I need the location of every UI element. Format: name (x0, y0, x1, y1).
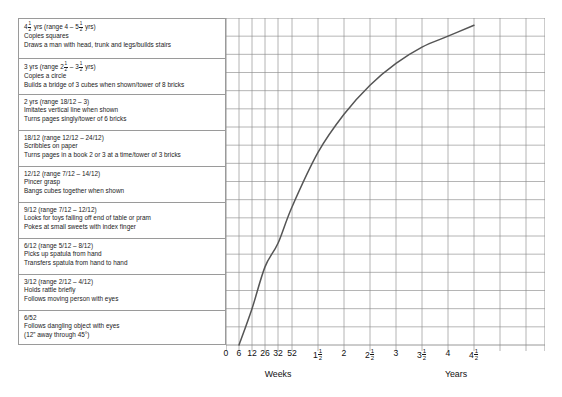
milestone-age: 9/12 (range 7/12 – 12/12) (24, 206, 221, 214)
milestone-age: 12/12 (range 7/12 – 14/12) (24, 170, 221, 178)
milestone-detail: Bangs cubes together when shown (24, 187, 221, 195)
milestone-detail: Builds a bridge of 3 cubes when shown/to… (24, 81, 221, 89)
milestone-list: 412 yrs (range 4 – 512 yrs)Copies square… (18, 18, 226, 345)
x-tick-6: 6 (237, 348, 242, 359)
milestone-age: 3 yrs (range 212 – 312 yrs) (24, 62, 221, 72)
x-tick-4: 4 (446, 348, 451, 359)
x-tick-32: 32 (273, 348, 283, 359)
milestone-detail: Holds rattle briefly (24, 286, 221, 294)
milestone-detail: Turns pages singly/tower of 6 bricks (24, 115, 221, 123)
milestone-age: 412 yrs (range 4 – 512 yrs) (24, 22, 221, 32)
milestone-box: 6/52Follows dangling object with eyes(12… (18, 310, 226, 345)
milestone-age: 18/12 (range 12/12 – 24/12) (24, 134, 221, 142)
milestone-detail: Follows dangling object with eyes (24, 322, 221, 330)
milestone-box: 6/12 (range 5/12 – 8/12)Picks up spatula… (18, 238, 226, 274)
milestone-detail: Draws a man with head, trunk and legs/bu… (24, 41, 221, 49)
milestone-box: 2 yrs (range 18/12 – 3)Imitates vertical… (18, 94, 226, 130)
x-axis-unit-labels: Weeks Years (0, 369, 562, 383)
milestone-detail: Turns pages in a book 2 or 3 at a time/t… (24, 151, 221, 159)
x-tick-1-1-2: 112 (313, 348, 323, 361)
x-axis-tick-labels: 0612263252112221233124412 (0, 348, 562, 364)
milestone-age: 2 yrs (range 18/12 – 3) (24, 98, 221, 106)
milestone-detail: (12” away through 45°) (24, 331, 221, 339)
x-axis-label-weeks: Weeks (265, 369, 292, 380)
milestone-detail: Scribbles on paper (24, 142, 221, 150)
milestone-age: 6/52 (24, 314, 221, 322)
x-tick-4-1-2: 412 (469, 348, 479, 361)
x-tick-0: 0 (224, 348, 229, 359)
milestone-age: 6/12 (range 5/12 – 8/12) (24, 242, 221, 250)
milestone-box: 3 yrs (range 212 – 312 yrs)Copies a circ… (18, 58, 226, 94)
developmental-chart (226, 18, 545, 345)
milestone-detail: Copies a circle (24, 72, 221, 80)
chart-page: 412 yrs (range 4 – 512 yrs)Copies square… (0, 0, 562, 397)
development-curve (226, 18, 545, 358)
milestone-age: 3/12 (range 2/12 – 4/12) (24, 278, 221, 286)
x-tick-52: 52 (287, 348, 297, 359)
x-tick-12: 12 (247, 348, 257, 359)
x-axis-label-years: Years (445, 369, 467, 380)
milestone-detail: Follows moving person with eyes (24, 295, 221, 303)
milestone-detail: Looks for toys falling off end of table … (24, 214, 221, 222)
x-tick-2-1-2: 212 (365, 348, 375, 361)
milestone-box: 9/12 (range 7/12 – 12/12)Looks for toys … (18, 202, 226, 238)
milestone-detail: Pokes at small sweets with index finger (24, 223, 221, 231)
x-tick-2: 2 (342, 348, 347, 359)
milestone-detail: Transfers spatula from hand to hand (24, 259, 221, 267)
milestone-detail: Picks up spatula from hand (24, 250, 221, 258)
milestone-detail: Imitates vertical line when shown (24, 106, 221, 114)
milestone-detail: Copies squares (24, 32, 221, 40)
milestone-box: 412 yrs (range 4 – 512 yrs)Copies square… (18, 18, 226, 58)
x-tick-26: 26 (260, 348, 270, 359)
milestone-box: 12/12 (range 7/12 – 14/12)Pincer graspBa… (18, 166, 226, 202)
milestone-detail: Pincer grasp (24, 178, 221, 186)
x-tick-3-1-2: 312 (417, 348, 427, 361)
milestone-box: 18/12 (range 12/12 – 24/12)Scribbles on … (18, 130, 226, 166)
x-tick-3: 3 (394, 348, 399, 359)
milestone-box: 3/12 (range 2/12 – 4/12)Holds rattle bri… (18, 274, 226, 310)
